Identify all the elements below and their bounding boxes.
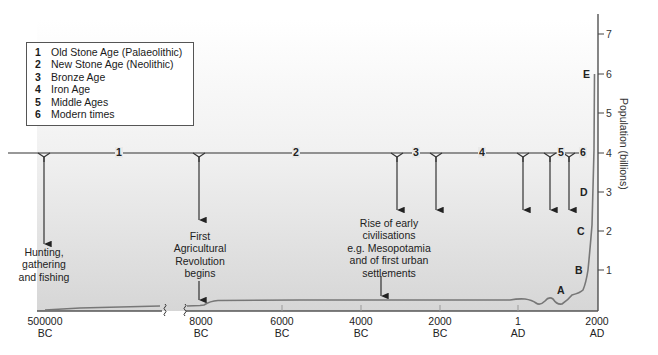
x-tick-1ad: 1AD [488, 315, 548, 340]
period-label-6: 6 [579, 147, 587, 158]
annotation-early-civilisations: Rise of early civilisations e.g. Mesopot… [341, 217, 437, 279]
x-tick-2000ad: 2000AD [567, 315, 627, 340]
y-ticks [598, 34, 604, 270]
y-tick-5: 5 [606, 107, 612, 119]
y-tick-7: 7 [606, 28, 612, 40]
curve-label-a: A [557, 284, 565, 296]
y-tick-3: 3 [606, 186, 612, 198]
annotation-hunting: Hunting, gathering and fishing [14, 246, 74, 283]
x-tick-2000bc: 2000BC [410, 315, 470, 340]
period-label-2: 2 [292, 147, 300, 158]
curve-label-b: B [575, 264, 583, 276]
legend-item-1: 1Old Stone Age (Palaeolithic) [35, 46, 193, 58]
annotation-agricultural-revolution: First Agricultural Revolution begins [167, 230, 233, 280]
curve-label-e: E [583, 68, 590, 80]
x-tick-6000bc: 6000BC [252, 315, 312, 340]
period-label-3: 3 [412, 147, 420, 158]
x-tick-500000bc: 500000BC [15, 315, 75, 340]
legend-item-3: 3Bronze Age [35, 71, 193, 83]
y-axis-label: Population (billions) [618, 98, 630, 190]
period-label-5: 5 [557, 147, 565, 158]
y-tick-1: 1 [606, 264, 612, 276]
y-tick-2: 2 [606, 225, 612, 237]
legend-item-4: 4Iron Age [35, 83, 193, 95]
y-tick-4: 4 [606, 147, 612, 159]
curve-label-d: D [580, 186, 588, 198]
period-label-4: 4 [478, 147, 486, 158]
period-label-1: 1 [115, 147, 123, 158]
x-tick-8000bc: 8000BC [171, 315, 231, 340]
legend-item-6: 6Modern times [35, 108, 193, 120]
curve-label-c: C [577, 225, 585, 237]
x-tick-4000bc: 4000BC [331, 315, 391, 340]
legend-item-2: 2New Stone Age (Neolithic) [35, 58, 193, 70]
y-tick-6: 6 [606, 68, 612, 80]
legend: 1Old Stone Age (Palaeolithic) 2New Stone… [26, 42, 194, 126]
legend-item-5: 5Middle Ages [35, 96, 193, 108]
